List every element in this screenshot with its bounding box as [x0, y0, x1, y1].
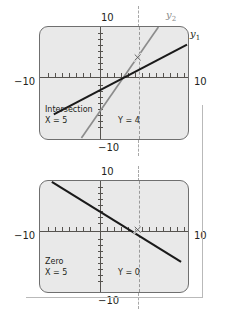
axis-label-left-1: −10 [14, 76, 35, 87]
axis-label-right-2: 10 [194, 230, 207, 241]
calculator-screen-intersection: Intersection X = 5 Y = 4 [39, 26, 189, 140]
axis-label-top-1: 10 [101, 12, 114, 23]
trace-dashed-line-below-2 [138, 293, 139, 309]
readout-title-zero: Zero [45, 257, 63, 266]
curve-label-y1-sub: 1 [196, 34, 200, 42]
trace-dashed-line-below-1 [138, 140, 139, 156]
curve-zero [52, 182, 181, 262]
readout-x-value-1: X = 5 [45, 116, 67, 125]
readout-x-value-2: X = 5 [45, 268, 67, 277]
horizontal-separator-rule [26, 297, 203, 298]
trace-dashed-line-above-2 [138, 166, 139, 181]
axis-label-right-1: 10 [194, 76, 207, 87]
curve-label-y2-sub: 2 [172, 15, 176, 23]
trace-cursor-marker-1 [134, 54, 142, 62]
zero-figure: 10 −10 10 −10 [0, 166, 205, 306]
trace-cursor-marker-2 [134, 226, 142, 234]
calculator-screen-zero: Zero X = 5 Y = 0 [39, 180, 189, 293]
vertical-separator-rule [202, 105, 203, 297]
curve-label-y1: y1 [190, 28, 200, 42]
trace-dashed-line-above-1 [138, 6, 139, 27]
curve-y1 [54, 45, 187, 115]
axis-label-bottom-1: −10 [98, 142, 119, 153]
curve-label-y2: y2 [166, 9, 176, 23]
figure-page: 10 −10 10 −10 y2 y1 [0, 0, 240, 323]
readout-y-value-2: Y = 0 [118, 268, 140, 277]
readout-title-intersection: Intersection [45, 105, 93, 114]
intersection-figure: 10 −10 10 −10 y2 y1 [0, 4, 205, 154]
readout-y-value-1: Y = 4 [118, 116, 140, 125]
axis-label-left-2: −10 [14, 230, 35, 241]
axis-label-top-2: 10 [101, 166, 114, 177]
